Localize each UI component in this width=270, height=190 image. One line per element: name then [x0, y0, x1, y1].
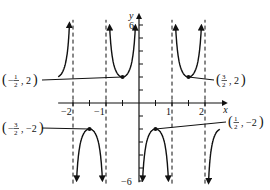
annotation-close: ) — [33, 72, 38, 88]
fraction-num: 1 — [14, 73, 18, 81]
fraction-num: 3 — [222, 73, 226, 81]
x-tick-label: 2 — [199, 106, 204, 117]
annotation: (−32, −2) — [2, 120, 90, 137]
x-tick-label: 1 — [166, 106, 171, 117]
fraction-den: 2 — [234, 123, 238, 131]
branch-right-partial — [209, 129, 220, 181]
branch-(0,1) — [143, 129, 169, 179]
axes: xy−2−1126−6 — [58, 10, 228, 188]
leader-line — [42, 77, 123, 80]
leader-line — [189, 77, 215, 80]
leader-line — [156, 122, 227, 129]
fraction-num: 1 — [234, 115, 238, 123]
fraction-den: 2 — [14, 129, 18, 137]
branch-left-partial — [58, 25, 69, 77]
annotation-y: , 2 — [229, 75, 239, 86]
fraction-den: 2 — [222, 81, 226, 89]
annotation-y: , 2 — [21, 75, 31, 86]
annotation-close: ) — [241, 72, 246, 88]
fraction-num: 3 — [14, 121, 18, 129]
annotation: (−12, 2) — [2, 72, 123, 89]
branch-(-1,0) — [110, 27, 136, 77]
annotation: (32, 2) — [189, 72, 247, 89]
fraction-den: 2 — [14, 81, 18, 89]
x-tick-label: −2 — [61, 106, 72, 117]
annotation-label: ( — [216, 72, 221, 88]
annotation-label: ( — [2, 72, 7, 88]
y-tick-label: 6 — [129, 20, 134, 31]
annotation-label: ( — [228, 114, 233, 130]
x-tick-label: −1 — [94, 106, 105, 117]
annotation-close: ) — [39, 120, 44, 136]
branch-(1,2) — [176, 27, 202, 77]
annotation-y: , −2 — [21, 123, 37, 134]
y-tick-label: −6 — [121, 176, 132, 187]
annotation-y: , −2 — [241, 117, 257, 128]
annotation: (12, −2) — [156, 114, 265, 131]
cosecant-graph: xy−2−1126−6 (−12, 2)(32, 2)(−32, −2)(12,… — [0, 0, 270, 190]
annotation-label: ( — [2, 120, 7, 136]
leader-line — [42, 128, 90, 129]
branch-(-2,-1) — [77, 129, 103, 179]
y-axis-label: y — [128, 10, 134, 21]
annotation-close: ) — [259, 114, 264, 130]
